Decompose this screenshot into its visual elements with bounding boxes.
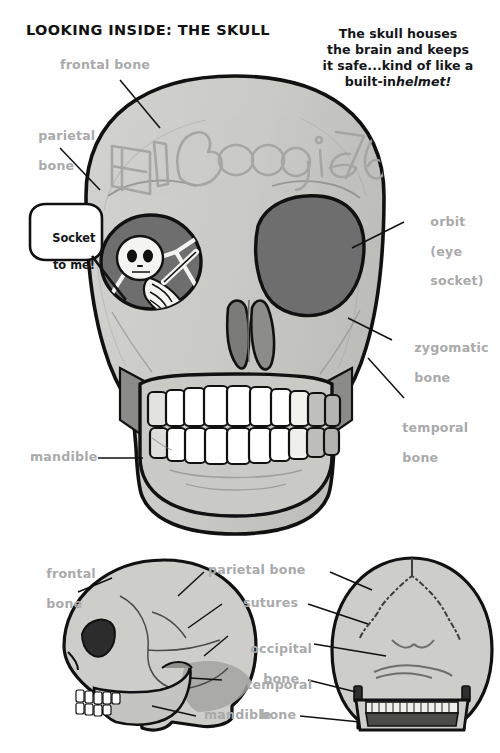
caption-line-4: built-in [345,74,396,89]
label-parietal-bone-line2: bone [38,158,74,173]
label-temporal-line1: temporal [402,420,468,435]
posterior-mandible-band [366,713,458,726]
label-temporal-line2: bone [402,450,438,465]
illustration-page: LOOKING INSIDE: THE SKULL The skull hous… [0,0,500,753]
caption-line-3: it safe...kind of like a [323,58,474,73]
posterior-teeth-band [366,702,458,713]
skeleton-head [117,236,163,280]
caption-text: The skull houses the brain and keeps it … [300,26,496,89]
label-occipital-line1: occipital [250,641,312,656]
label-mandible-2: mandible [204,708,271,723]
speech-bubble-text: Socket to me! [34,218,98,286]
label-frontal-2-line2: bone [46,596,82,611]
label-parietal-bone: parietal bone [20,114,95,188]
label-zygomatic-line1: zygomatic [414,340,488,355]
caption-line-2: the brain and keeps [327,42,469,57]
label-temporal-2-line1: temporal [246,677,312,692]
bubble-line-1: Socket [52,231,95,245]
label-frontal-2-line1: frontal [46,566,96,581]
label-orbit-line2: (eye [430,244,462,259]
label-zygomatic-bone: zygomatic bone [396,326,489,400]
caption-line-1: The skull houses [339,26,457,41]
label-mandible: mandible [30,450,97,465]
bubble-line-2: to me! [53,258,95,272]
label-temporal-bone: temporal bone [384,406,468,480]
label-temporal-bone-2: temporal bone [228,663,310,737]
page-title: LOOKING INSIDE: THE SKULL [26,22,270,39]
label-orbit-line3: socket) [430,273,483,288]
orbit-right [256,196,364,316]
label-sutures: sutures [243,596,298,611]
label-frontal-bone: frontal bone [60,58,150,73]
label-parietal-bone-2: parietal bone [208,563,306,578]
label-parietal-bone-line1: parietal [38,128,95,143]
label-frontal-bone-2: frontal bone [28,552,96,626]
label-orbit-line1: orbit [430,214,465,229]
label-zygomatic-line2: bone [414,370,450,385]
caption-emphasis: helmet! [396,74,451,89]
label-orbit: orbit (eye socket) [412,200,484,304]
